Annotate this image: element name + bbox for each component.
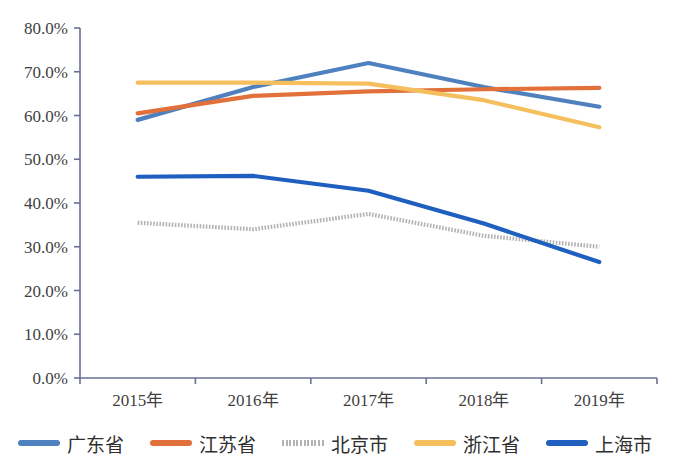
y-tick-label: 60.0% — [24, 107, 68, 126]
x-tick-label: 2017年 — [343, 391, 394, 410]
plot-area: 0.0%10.0%20.0%30.0%40.0%50.0%60.0%70.0%8… — [0, 0, 681, 420]
legend-label: 广东省 — [67, 430, 124, 457]
legend-label: 江苏省 — [199, 430, 256, 457]
legend-item[interactable]: 江苏省 — [150, 430, 256, 457]
chart-canvas: 0.0%10.0%20.0%30.0%40.0%50.0%60.0%70.0%8… — [0, 0, 681, 420]
legend-item[interactable]: 北京市 — [282, 430, 388, 457]
series-lines — [138, 63, 600, 262]
legend-item[interactable]: 上海市 — [546, 430, 652, 457]
x-tick-label: 2016年 — [228, 391, 279, 410]
legend-swatch-icon — [150, 440, 192, 446]
x-tick-label: 2018年 — [458, 391, 509, 410]
legend-label: 上海市 — [595, 430, 652, 457]
legend-label: 浙江省 — [463, 430, 520, 457]
x-tick-label: 2015年 — [112, 391, 163, 410]
y-tick-label: 80.0% — [24, 19, 68, 38]
y-tick-label: 0.0% — [33, 369, 68, 388]
legend-swatch-icon — [414, 440, 456, 446]
legend-swatch-icon — [18, 440, 60, 446]
legend-swatch-icon — [546, 440, 588, 446]
legend-item[interactable]: 浙江省 — [414, 430, 520, 457]
y-tick-label: 30.0% — [24, 238, 68, 257]
x-axis — [80, 378, 657, 384]
chart-legend: 广东省江苏省北京市浙江省上海市 — [0, 426, 681, 460]
y-tick-label: 70.0% — [24, 63, 68, 82]
y-tick-labels: 0.0%10.0%20.0%30.0%40.0%50.0%60.0%70.0%8… — [24, 19, 68, 388]
line-chart: 0.0%10.0%20.0%30.0%40.0%50.0%60.0%70.0%8… — [0, 0, 681, 460]
y-tick-label: 40.0% — [24, 194, 68, 213]
legend-swatch-icon — [282, 440, 324, 446]
y-tick-label: 50.0% — [24, 150, 68, 169]
x-tick-labels: 2015年2016年2017年2018年2019年 — [112, 391, 625, 410]
x-tick-label: 2019年 — [574, 391, 625, 410]
y-axis — [74, 28, 80, 378]
series-line — [138, 176, 600, 262]
y-tick-label: 10.0% — [24, 325, 68, 344]
legend-label: 北京市 — [331, 430, 388, 457]
y-tick-label: 20.0% — [24, 282, 68, 301]
legend-item[interactable]: 广东省 — [18, 430, 124, 457]
series-line — [138, 214, 600, 247]
